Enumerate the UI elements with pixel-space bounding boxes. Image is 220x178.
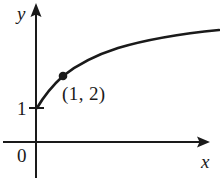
graph-canvas (0, 0, 220, 178)
origin-label: 0 (17, 146, 27, 165)
graph-figure: y x 1 0 (1, 2) (0, 0, 220, 178)
data-point-marker (59, 72, 68, 81)
y-axis-label: y (17, 4, 25, 23)
x-axis-label: x (201, 152, 209, 171)
y-axis-tick-label-one: 1 (17, 99, 27, 118)
data-point-label: (1, 2) (62, 84, 106, 103)
